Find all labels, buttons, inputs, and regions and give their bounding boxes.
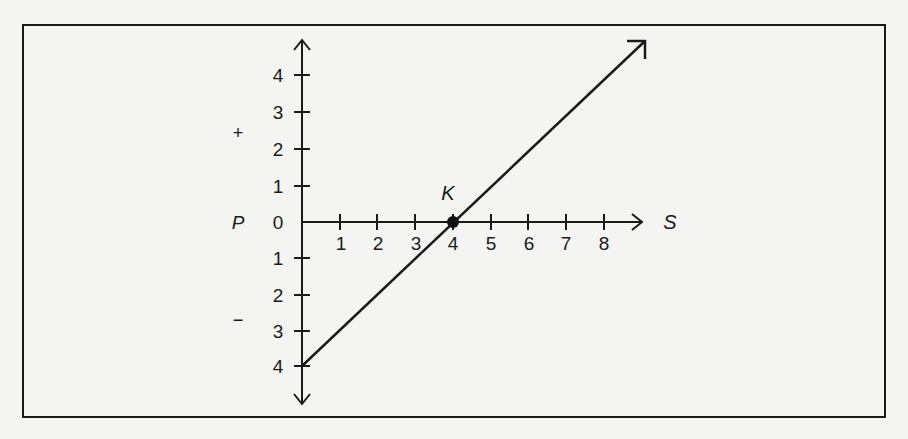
positive-sign-label: + xyxy=(233,123,244,143)
x-tick-label: 7 xyxy=(561,233,572,254)
point-k-label: K xyxy=(441,182,456,204)
negative-sign-label: − xyxy=(233,310,244,330)
x-tick-labels: 1 2 3 4 5 6 7 8 xyxy=(336,233,610,254)
data-line xyxy=(302,41,645,366)
y-tick-label: 4 xyxy=(273,356,284,377)
y-tick-labels: 4 3 2 1 0 1 2 3 4 xyxy=(273,65,284,377)
y-tick-label: 4 xyxy=(273,65,284,86)
y-tick-label: 2 xyxy=(273,285,284,306)
point-k-marker xyxy=(447,216,459,228)
x-tick-label: 5 xyxy=(486,233,497,254)
x-axis xyxy=(302,214,642,230)
y-tick-label: 1 xyxy=(273,248,284,269)
y-axis-label: P xyxy=(232,212,245,233)
y-tick-label: 2 xyxy=(273,139,284,160)
x-tick-label: 8 xyxy=(599,233,610,254)
chart-plot: 4 3 2 1 0 1 2 3 4 + P − 1 2 3 4 5 6 7 8 … xyxy=(0,0,908,439)
y-tick-label: 1 xyxy=(273,176,284,197)
x-tick-label: 3 xyxy=(411,233,422,254)
x-tick-label: 6 xyxy=(524,233,535,254)
x-tick-label: 1 xyxy=(336,233,347,254)
y-tick-label-zero: 0 xyxy=(273,212,284,233)
y-tick-label: 3 xyxy=(273,321,284,342)
x-tick-label: 2 xyxy=(373,233,384,254)
x-tick-label: 4 xyxy=(448,233,459,254)
x-axis-label: S xyxy=(663,211,677,233)
y-tick-label: 3 xyxy=(273,102,284,123)
